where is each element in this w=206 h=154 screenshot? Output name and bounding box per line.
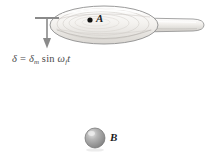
- point-a-label: A: [96, 12, 103, 24]
- paddle-head: [50, 6, 158, 44]
- point-b-label: B: [110, 131, 117, 143]
- equation-delta: δ: [12, 53, 17, 64]
- equation-t: t: [67, 53, 70, 64]
- displacement-equation: δ = δm sin ωft: [12, 53, 70, 66]
- point-a-dot: [87, 17, 92, 22]
- equation-subscript-m: m: [34, 58, 39, 66]
- physics-figure: δ = δm sin ωft A B: [0, 0, 206, 154]
- pendulum-ball: [85, 128, 105, 152]
- equation-equals: =: [20, 53, 26, 64]
- equation-sin: sin: [42, 53, 55, 64]
